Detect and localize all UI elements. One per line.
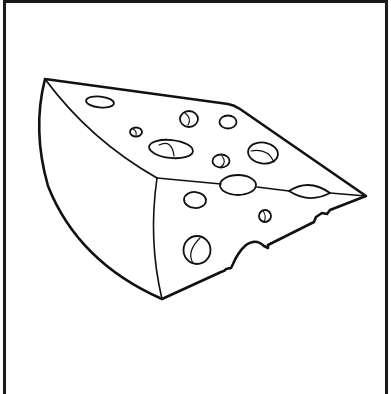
cheese-illustration [0,0,391,394]
front-face-holes [183,191,271,264]
front-face-edge [153,178,162,299]
top-face-holes [86,95,280,167]
edge-holes [220,175,330,198]
page-border [4,0,388,394]
wedge-outline [39,79,366,299]
cheese-wedge [39,79,366,299]
